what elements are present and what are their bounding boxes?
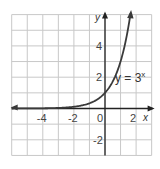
exponential-graph: -4-20242-2 y x y = 3x (0, 0, 160, 169)
y-tick-label: 4 (96, 40, 102, 52)
equation-base: y = 3 (115, 71, 142, 85)
grid-lines (12, 15, 152, 156)
x-tick-label: -2 (68, 112, 78, 124)
equation-exponent: x (141, 70, 145, 79)
x-tick-label: 2 (130, 112, 136, 124)
curve-y-equals-3-to-x (12, 13, 131, 108)
x-tick-label: 0 (97, 112, 103, 124)
equation-label: y = 3x (115, 70, 145, 85)
y-axis-arrow-icon (102, 12, 108, 19)
arrowheads (11, 10, 155, 111)
y-axis-label: y (94, 12, 101, 23)
y-tick-label: 2 (96, 71, 102, 83)
y-tick-label: -2 (93, 134, 103, 146)
x-tick-label: -4 (37, 112, 47, 124)
x-axis-label: x (142, 112, 149, 123)
